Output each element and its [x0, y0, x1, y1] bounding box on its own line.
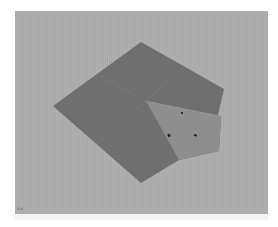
viewport-status-strip — [15, 214, 268, 220]
vertex-marker[interactable] — [181, 112, 183, 114]
3d-viewport[interactable]: z x — [15, 11, 268, 214]
axis-indicator: z x — [17, 207, 23, 211]
mesh-canvas[interactable] — [15, 11, 268, 214]
